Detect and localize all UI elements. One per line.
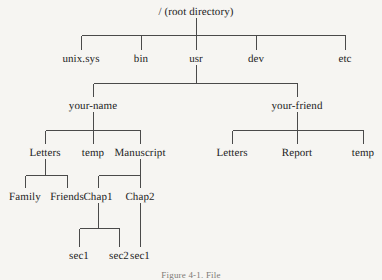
node-root: / (root directory): [158, 6, 233, 18]
node-manuscript: Manuscript: [114, 147, 165, 159]
node-letters-right: Letters: [216, 147, 247, 159]
tree-connector-lines: [0, 0, 382, 280]
figure-caption: Figure 4-1. File: [161, 270, 220, 280]
node-chap1: Chap1: [83, 191, 112, 203]
node-unix-sys: unix.sys: [62, 53, 99, 65]
node-sec2-chap1: sec2: [109, 250, 129, 262]
node-letters-left: Letters: [29, 147, 60, 159]
node-etc: etc: [338, 53, 351, 65]
node-temp-right: temp: [352, 147, 374, 159]
node-report: Report: [282, 147, 313, 159]
node-family: Family: [9, 191, 41, 203]
filesystem-tree-diagram: / (root directory) unix.sys bin usr dev …: [0, 0, 382, 280]
node-temp-left: temp: [82, 147, 104, 159]
node-usr: usr: [189, 53, 203, 65]
node-your-name: your-name: [69, 100, 117, 112]
node-sec1-chap2: sec1: [130, 250, 150, 262]
node-bin: bin: [134, 53, 148, 65]
node-chap2: Chap2: [125, 191, 154, 203]
node-dev: dev: [248, 53, 264, 65]
node-your-friend: your-friend: [272, 100, 323, 112]
node-friends: Friends: [50, 191, 84, 203]
node-sec1-chap1: sec1: [69, 250, 89, 262]
